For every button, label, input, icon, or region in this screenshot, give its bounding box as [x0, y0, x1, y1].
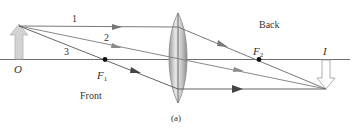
focal-front-label: F1 — [96, 69, 108, 83]
ray-1-arrowhead-icon — [112, 24, 122, 30]
ray-3-label: 3 — [64, 46, 69, 57]
ray-3-exit-arrowhead-icon — [232, 85, 243, 93]
ray-3-arrowhead-icon — [130, 67, 141, 73]
ray-1-label: 1 — [72, 13, 77, 24]
image-label: I — [322, 45, 328, 57]
front-label: Front — [80, 90, 102, 101]
converging-lens — [169, 13, 187, 103]
back-label: Back — [259, 19, 280, 30]
object-arrow-icon — [10, 24, 28, 59]
image-arrow-icon — [317, 60, 335, 89]
focal-point-f1 — [103, 57, 108, 62]
focal-back-label: F2 — [252, 45, 264, 59]
lens-ray-diagram: O I F1 F2 1 2 3 Front Back (a) — [0, 0, 353, 134]
object-label: O — [14, 63, 22, 75]
ray-1-exit-arrowhead-icon — [217, 40, 228, 47]
ray-2-label: 2 — [104, 32, 109, 43]
ray-2-exit-arrowhead-icon — [233, 67, 244, 72]
ray-2-arrowhead-icon — [111, 43, 122, 48]
figure-caption: (a) — [171, 113, 181, 123]
